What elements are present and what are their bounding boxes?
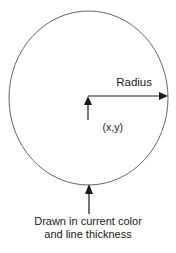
center-point-label: (x,y) (0, 121, 123, 133)
center-arrow-icon (84, 96, 92, 120)
caption: Drawn in current color and line thicknes… (0, 215, 176, 240)
outline-arrow-icon (85, 184, 93, 214)
caption-line-2: and line thickness (0, 228, 176, 241)
caption-line-1: Drawn in current color (0, 215, 176, 228)
radius-label: Radius (0, 76, 152, 89)
circle-diagram: Radius (x,y) Drawn in current color and … (0, 0, 176, 253)
radius-arrow-icon (88, 92, 168, 100)
